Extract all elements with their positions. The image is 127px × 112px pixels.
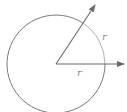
angled-radius-arrow xyxy=(56,5,95,64)
radius-label: r xyxy=(77,67,83,78)
arc-label: r xyxy=(102,31,108,42)
radian-diagram: r r xyxy=(0,0,127,112)
arc-length-r xyxy=(83,23,105,64)
